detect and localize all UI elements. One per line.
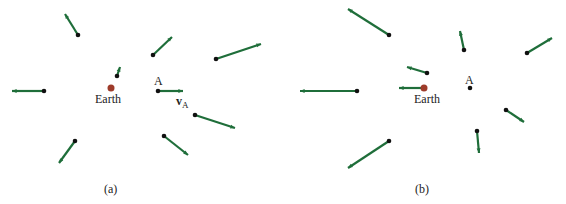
particle-point (462, 48, 467, 53)
velocity-field-figure (0, 0, 566, 204)
particle-point (76, 33, 81, 38)
particle-point (115, 74, 120, 79)
caption-a: (a) (104, 182, 117, 197)
velocity-vector (216, 44, 261, 59)
particle-point (387, 33, 392, 38)
velocity-label: vA (176, 94, 189, 110)
point-a-label-a: A (154, 74, 163, 89)
particle-point (73, 139, 78, 144)
velocity-vector-head (12, 89, 17, 93)
particle-point (504, 108, 509, 113)
particle-point (214, 57, 219, 62)
velocity-vector (348, 141, 389, 168)
velocity-vector (348, 9, 389, 35)
particle-point (387, 139, 392, 144)
earth-velocity-vector-head (399, 86, 404, 90)
particle-point (42, 89, 47, 94)
point-a-label-b: A (465, 73, 474, 88)
particle-point (475, 129, 480, 134)
particle-point (156, 89, 161, 94)
particle-point (525, 51, 530, 56)
particle-point (425, 71, 430, 76)
earth-label-b: Earth (414, 92, 440, 107)
velocity-vector (195, 115, 235, 128)
caption-b: (b) (415, 182, 429, 197)
particle-point (151, 53, 156, 58)
earth-label-a: Earth (95, 92, 121, 107)
velocity-vector-head (178, 89, 183, 93)
particle-point (162, 134, 167, 139)
particle-point (193, 113, 198, 118)
velocity-vector-head (117, 67, 121, 72)
earth-marker (421, 85, 428, 92)
particle-point (355, 89, 360, 94)
earth-marker (108, 85, 115, 92)
velocity-vector-head (256, 44, 261, 48)
velocity-vector-head (300, 89, 305, 93)
velocity-vector-head (230, 125, 235, 129)
